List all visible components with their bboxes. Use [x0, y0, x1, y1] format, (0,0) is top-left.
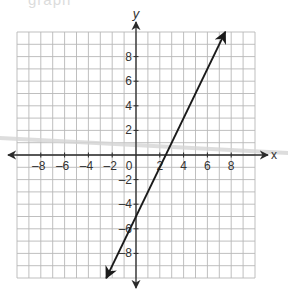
x-tick-label: –6 [56, 159, 70, 173]
graph-figure: graph –8–6–4–224688642–2–4–6–80xy [0, 0, 288, 299]
y-tick-label: –2 [119, 173, 133, 187]
scan-smear-band [0, 136, 288, 155]
y-tick-label: –4 [119, 197, 133, 211]
y-tick-label: 2 [125, 123, 132, 137]
y-tick-label: 4 [125, 99, 132, 113]
y-tick-label: 8 [125, 50, 132, 64]
x-tick-label: –4 [80, 159, 94, 173]
y-tick-label: 6 [125, 74, 132, 88]
coordinate-plane: –8–6–4–224688642–2–4–6–80xy [0, 0, 288, 299]
x-tick-label: –2 [104, 159, 118, 173]
x-tick-label: 6 [204, 159, 211, 173]
cropped-heading-text: graph [28, 0, 71, 8]
y-axis-label: y [132, 6, 141, 21]
x-tick-label: 4 [180, 159, 187, 173]
x-tick-label: 8 [228, 159, 235, 173]
x-tick-label: –8 [32, 159, 46, 173]
origin-label: 0 [126, 159, 133, 173]
x-axis-label: x [271, 148, 277, 162]
